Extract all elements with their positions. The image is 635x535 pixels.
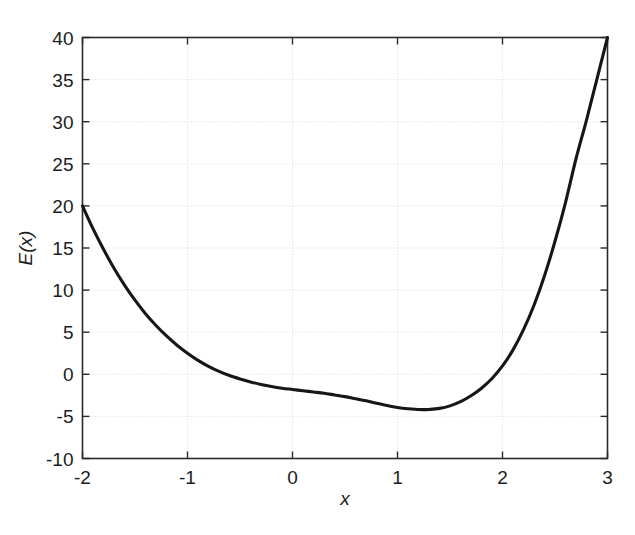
x-tick-label: 2 bbox=[497, 467, 508, 488]
y-tick-label: 25 bbox=[52, 154, 73, 175]
figure-container: -2-10123 -10-50510152025303540 x E(x) bbox=[0, 0, 635, 535]
y-tick-labels: -10-50510152025303540 bbox=[46, 28, 73, 470]
x-tick-labels: -2-10123 bbox=[74, 467, 613, 488]
y-tick-label: 0 bbox=[63, 364, 74, 385]
y-tick-label: 30 bbox=[52, 112, 73, 133]
y-tick-label: 35 bbox=[52, 70, 73, 91]
y-tick-label: 20 bbox=[52, 196, 73, 217]
x-tick-label: 1 bbox=[392, 467, 403, 488]
x-tick-label: -2 bbox=[74, 467, 91, 488]
x-tick-label: 0 bbox=[287, 467, 298, 488]
y-tick-label: 40 bbox=[52, 28, 73, 49]
y-tick-label: 10 bbox=[52, 280, 73, 301]
chart-canvas: -2-10123 -10-50510152025303540 x E(x) bbox=[0, 0, 635, 535]
y-axis-title: E(x) bbox=[15, 231, 36, 266]
y-tick-label: -10 bbox=[46, 449, 73, 470]
x-axis-title: x bbox=[339, 488, 351, 509]
y-tick-label: -5 bbox=[57, 406, 74, 427]
y-tick-label: 5 bbox=[63, 322, 74, 343]
data-series-line bbox=[83, 38, 608, 410]
x-tick-label: 3 bbox=[602, 467, 613, 488]
x-tick-label: -1 bbox=[179, 467, 196, 488]
y-tick-label: 15 bbox=[52, 238, 73, 259]
